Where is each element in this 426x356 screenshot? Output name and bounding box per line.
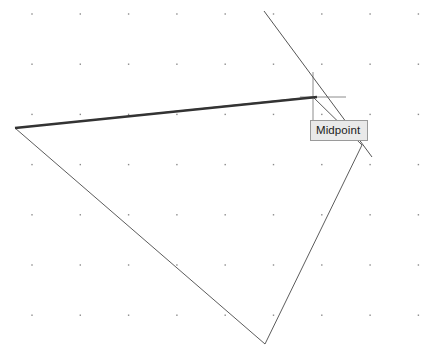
grid-dot-layer (0, 0, 426, 356)
grid-dot (321, 214, 322, 215)
grid-dot (80, 264, 81, 265)
grid-dot (225, 214, 226, 215)
grid-dot (31, 315, 32, 316)
midpoint-tooltip-label: Midpoint (316, 124, 360, 136)
grid-dot (225, 264, 226, 265)
grid-dot (418, 13, 419, 14)
grid-dot (418, 64, 419, 65)
grid-dot (128, 264, 129, 265)
grid-dot (418, 214, 419, 215)
grid-dot (31, 164, 32, 165)
grid-dot (80, 214, 81, 215)
grid-dot (369, 64, 370, 65)
grid-dot (31, 214, 32, 215)
grid-dot (369, 264, 370, 265)
grid-dot (80, 114, 81, 115)
grid-dot (128, 64, 129, 65)
grid-dot (128, 214, 129, 215)
grid-dot (80, 64, 81, 65)
grid-dot (273, 315, 274, 316)
grid-dot (225, 164, 226, 165)
grid-dot (225, 315, 226, 316)
grid-dot (80, 315, 81, 316)
grid-dot (225, 13, 226, 14)
grid-dot (31, 13, 32, 14)
grid-dot (80, 13, 81, 14)
grid-dot (418, 164, 419, 165)
grid-dot (273, 64, 274, 65)
grid-dot (176, 264, 177, 265)
grid-dot (273, 214, 274, 215)
grid-dot (369, 114, 370, 115)
grid-dot (31, 64, 32, 65)
grid-dot (31, 114, 32, 115)
grid-dot (369, 164, 370, 165)
grid-dot (176, 214, 177, 215)
grid-dot (418, 114, 419, 115)
grid-dot (225, 114, 226, 115)
grid-dot (128, 164, 129, 165)
grid-dot (128, 114, 129, 115)
grid-dot (321, 164, 322, 165)
grid-dot (418, 315, 419, 316)
grid-dot (321, 13, 322, 14)
grid-dot (31, 264, 32, 265)
grid-dot (369, 315, 370, 316)
midpoint-tooltip: Midpoint (310, 120, 368, 141)
grid-dot (273, 13, 274, 14)
grid-dot (273, 264, 274, 265)
grid-dot (176, 13, 177, 14)
geometry-drawing-canvas[interactable]: Midpoint (0, 0, 426, 356)
grid-dot (80, 164, 81, 165)
grid-dot (273, 164, 274, 165)
grid-dot (128, 13, 129, 14)
grid-dot (176, 315, 177, 316)
grid-dot (369, 13, 370, 14)
grid-dot (273, 114, 274, 115)
grid-dot (418, 264, 419, 265)
grid-dot (321, 264, 322, 265)
grid-dot (176, 114, 177, 115)
grid-dot (176, 64, 177, 65)
grid-dot (225, 64, 226, 65)
grid-dot (128, 315, 129, 316)
grid-dot (369, 214, 370, 215)
grid-dot (321, 114, 322, 115)
grid-dot (321, 315, 322, 316)
grid-dot (176, 164, 177, 165)
grid-dot (321, 64, 322, 65)
